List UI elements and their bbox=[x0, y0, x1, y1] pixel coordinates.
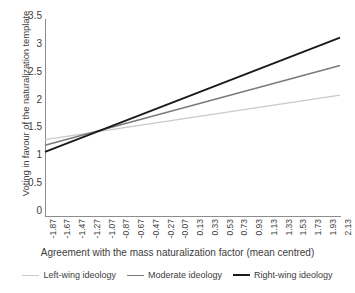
x-tick-label: 1.93 bbox=[329, 219, 338, 236]
x-tick-label: -1.87 bbox=[49, 219, 58, 238]
legend-item[interactable]: Left-wing ideology bbox=[22, 270, 116, 280]
series-line bbox=[45, 38, 340, 152]
legend-label: Left-wing ideology bbox=[43, 270, 116, 280]
y-tick-label: 3.5 bbox=[28, 11, 42, 21]
y-tick-label: 0 bbox=[36, 206, 42, 216]
y-tick-label: 1.5 bbox=[28, 122, 42, 132]
y-axis-tick-labels: 00.511.522.533.5 bbox=[14, 16, 42, 216]
x-tick-label: 0.93 bbox=[255, 219, 264, 236]
legend-line-icon bbox=[127, 275, 144, 276]
legend-label: Right-wing ideology bbox=[254, 270, 333, 280]
x-tick-label: -1.47 bbox=[78, 219, 87, 238]
x-tick-label: 0.73 bbox=[240, 219, 249, 236]
x-tick-label: 0.33 bbox=[211, 219, 220, 236]
chart-legend: Left-wing ideologyModerate ideologyRight… bbox=[0, 270, 355, 280]
x-tick-label: -0.07 bbox=[181, 219, 190, 238]
x-axis-tick-labels: -1.87-1.67-1.47-1.27-1.07-0.87-0.67-0.47… bbox=[45, 219, 340, 245]
x-tick-label: -1.07 bbox=[108, 219, 117, 238]
x-tick-label: -1.27 bbox=[93, 219, 102, 238]
x-axis-label: Agreement with the mass naturalization f… bbox=[0, 247, 355, 258]
x-tick-label: -0.67 bbox=[137, 219, 146, 238]
x-tick-label: -0.47 bbox=[152, 219, 161, 238]
y-tick-label: 2 bbox=[36, 95, 42, 105]
series-lines bbox=[45, 21, 340, 216]
plot-area bbox=[45, 21, 340, 216]
x-axis-line bbox=[45, 216, 341, 217]
chart-figure: Voting in favour of the naturalization t… bbox=[0, 0, 355, 293]
legend-label: Moderate ideology bbox=[148, 270, 222, 280]
x-tick-label: 1.33 bbox=[285, 219, 294, 236]
legend-item[interactable]: Moderate ideology bbox=[127, 270, 222, 280]
series-line bbox=[45, 66, 340, 146]
y-tick-label: 0.5 bbox=[28, 178, 42, 188]
legend-line-icon bbox=[233, 274, 250, 276]
x-tick-label: 1.13 bbox=[270, 219, 279, 236]
x-tick-label: 2.13 bbox=[344, 219, 353, 236]
y-tick-label: 1 bbox=[36, 150, 42, 160]
legend-line-icon bbox=[22, 275, 39, 276]
x-tick-label: 1.53 bbox=[299, 219, 308, 236]
y-tick-label: 3 bbox=[36, 39, 42, 49]
legend-item[interactable]: Right-wing ideology bbox=[233, 270, 333, 280]
x-tick-label: -0.27 bbox=[167, 219, 176, 238]
x-tick-label: 1.73 bbox=[314, 219, 323, 236]
x-tick-label: -1.67 bbox=[63, 219, 72, 238]
x-tick-label: 0.53 bbox=[226, 219, 235, 236]
y-tick-label: 2.5 bbox=[28, 67, 42, 77]
x-tick-label: 0.13 bbox=[196, 219, 205, 236]
x-tick-label: -0.87 bbox=[122, 219, 131, 238]
